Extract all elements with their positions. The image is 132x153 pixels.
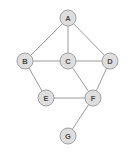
graph-node-label-d: D (107, 57, 113, 66)
graph-node-label-b: B (22, 57, 28, 66)
graph-edge-f-g (72, 105, 88, 130)
graph-edge-d-f (96, 68, 106, 90)
graph-node-label-f: F (91, 94, 96, 103)
graph-diagram: ABCDEFG (0, 0, 132, 153)
graph-node-label-a: A (65, 14, 71, 23)
graph-node-label-g: G (65, 132, 71, 141)
graph-node-g[interactable]: G (60, 128, 76, 144)
graph-node-e[interactable]: E (38, 90, 54, 106)
graph-edge-a-b (31, 24, 63, 56)
graph-node-d[interactable]: D (102, 53, 118, 69)
graph-edge-a-d (74, 24, 105, 56)
graph-edge-c-f (72, 68, 88, 92)
graph-node-b[interactable]: B (17, 53, 33, 69)
graph-canvas: ABCDEFG (0, 0, 132, 153)
graph-node-label-c: C (65, 57, 71, 66)
graph-node-a[interactable]: A (60, 10, 76, 26)
graph-node-f[interactable]: F (85, 90, 101, 106)
graph-node-label-e: E (43, 94, 48, 103)
graph-node-c[interactable]: C (60, 53, 76, 69)
edge-layer (29, 24, 107, 130)
graph-edge-b-e (29, 68, 42, 91)
